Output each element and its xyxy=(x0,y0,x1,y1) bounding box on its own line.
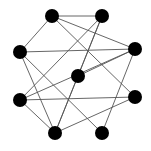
node-D xyxy=(128,42,142,56)
edge-F-H xyxy=(20,100,55,133)
node-I xyxy=(95,126,109,140)
edge-A-D xyxy=(52,16,135,49)
node-G xyxy=(128,90,142,104)
node-H xyxy=(48,126,62,140)
edge-C-I xyxy=(20,52,102,133)
node-C xyxy=(13,45,27,59)
node-F xyxy=(13,93,27,107)
edge-C-D xyxy=(20,49,135,52)
edge-F-G xyxy=(20,97,135,100)
node-E xyxy=(71,69,85,83)
node-B xyxy=(95,9,109,23)
edge-A-G xyxy=(52,16,135,97)
network-graph xyxy=(0,0,151,151)
edge-B-F xyxy=(20,16,102,100)
node-A xyxy=(45,9,59,23)
edge-A-C xyxy=(20,16,52,52)
graph-nodes xyxy=(13,9,142,140)
